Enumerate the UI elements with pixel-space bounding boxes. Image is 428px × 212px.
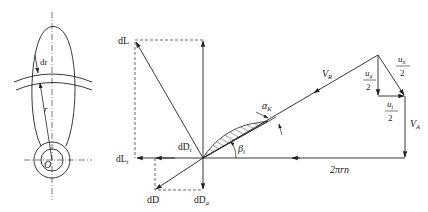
dL-vector [136,42,203,158]
dL-label: dL [118,35,129,46]
VR-arrowhead [314,89,320,93]
origin-label: O [44,159,51,170]
VA-label: VA [410,118,420,130]
r-label: r [44,104,48,114]
svg-text:2: 2 [366,82,371,92]
diagram-canvas: dr r O [0,0,428,212]
alpha-arrow-upper [256,112,268,118]
blade-view: dr r O [14,12,92,200]
alpha-arrow-lower [279,124,282,135]
beta-label: βi [237,143,245,155]
dr-label: dr [40,57,48,67]
VR-label: VR [322,68,332,80]
un-half-label: un 2 [396,54,410,78]
svg-text:un: un [398,54,406,65]
svg-text:ua: ua [365,68,373,79]
dD-label: dD [147,194,159,205]
ua-half-label: ua 2 [363,68,376,92]
dDt-label: dDt [178,142,192,153]
strip-arc-inner [16,83,92,91]
dr-arrow [35,55,38,73]
radius-arrow [40,83,52,160]
beta-angle-arc [230,142,236,158]
dD-vector [156,158,203,189]
svg-text:2: 2 [400,68,405,78]
ut-half-label: ut 2 [385,99,398,123]
blade-outline [32,26,75,146]
dLt-label: dLt [116,154,129,165]
svg-text:2: 2 [388,113,393,123]
svg-text:ut: ut [387,99,394,110]
alpha-label: αK [262,100,272,112]
two-pi-rn-label: 2πrn [330,164,349,175]
strip-arc-outer [14,74,92,82]
force-diagram: dL dLt dDt dD dDa αK βi VR VA 2πrn un 2 … [116,35,420,206]
dDa-label: dDa [194,195,209,206]
